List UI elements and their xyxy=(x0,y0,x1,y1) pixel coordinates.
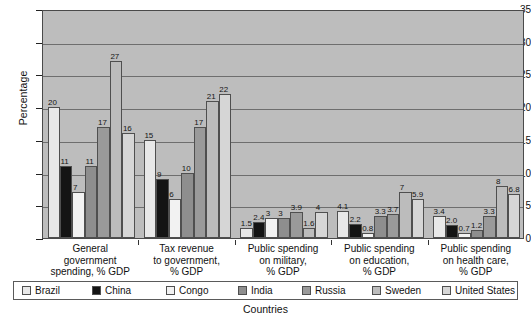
bar-value-label: 8 xyxy=(496,178,500,186)
bar-value-label: 16 xyxy=(123,125,132,133)
bar xyxy=(265,218,277,238)
bar xyxy=(446,225,458,238)
bar-value-label: 11 xyxy=(85,158,93,166)
bar xyxy=(362,233,374,238)
bar xyxy=(315,212,327,238)
bar xyxy=(278,218,290,238)
plot-area: 20117111727161596101721221.52.4333.91.64… xyxy=(42,10,524,239)
bar xyxy=(253,222,265,238)
legend-label: United States xyxy=(455,285,515,296)
bar xyxy=(290,212,302,238)
bar-value-label: 17 xyxy=(98,119,107,127)
bar xyxy=(508,194,520,238)
bar-value-label: 6.8 xyxy=(509,186,520,194)
legend-swatch-icon xyxy=(22,286,31,295)
bar xyxy=(471,230,483,238)
bar-value-label: 4.1 xyxy=(337,203,348,211)
bar-chart: Percentage 05101520253035 20117111727161… xyxy=(0,0,531,318)
bar-value-label: 5.9 xyxy=(412,191,423,199)
bar-value-label: 10 xyxy=(182,165,191,173)
legend-item-congo[interactable]: Congo xyxy=(166,285,208,296)
x-axis-title: Countries xyxy=(0,303,531,315)
bar xyxy=(72,192,84,238)
bar-value-label: 2.2 xyxy=(350,216,361,224)
x-axis-category-label: Generalgovernmentspending, % GDP xyxy=(42,243,138,278)
bar xyxy=(412,199,424,238)
legend-swatch-icon xyxy=(166,286,175,295)
bar xyxy=(169,199,181,238)
bar-value-label: 27 xyxy=(110,53,119,61)
bar xyxy=(483,216,495,238)
legend-swatch-icon xyxy=(238,286,247,295)
bar-value-label: 9 xyxy=(157,171,161,179)
bar-value-label: 3 xyxy=(278,210,282,218)
bar-value-label: 3 xyxy=(266,210,270,218)
bar-value-label: 7 xyxy=(400,184,404,192)
bar-value-label: 4 xyxy=(316,204,320,212)
bar xyxy=(387,214,399,238)
bar-value-label: 0.7 xyxy=(459,225,470,233)
bar xyxy=(433,216,445,238)
legend-swatch-icon xyxy=(442,286,451,295)
legend-item-sweden[interactable]: Sweden xyxy=(372,285,421,296)
bar xyxy=(496,186,508,238)
bar-value-label: 0.8 xyxy=(362,225,373,233)
legend-swatch-icon xyxy=(92,286,101,295)
bar xyxy=(97,127,109,238)
bar-value-label: 1.2 xyxy=(471,222,482,230)
legend-item-china[interactable]: China xyxy=(92,285,131,296)
gridline xyxy=(43,44,523,45)
legend-label: India xyxy=(251,285,273,296)
legend-item-india[interactable]: India xyxy=(238,285,273,296)
x-axis-category-label: Public spendingon military,% GDP xyxy=(235,243,331,278)
bar xyxy=(60,166,72,238)
bar-value-label: 11 xyxy=(60,158,68,166)
legend-item-brazil[interactable]: Brazil xyxy=(22,285,60,296)
bar-value-label: 3.3 xyxy=(484,208,495,216)
legend-item-russia[interactable]: Russia xyxy=(302,285,346,296)
bar xyxy=(240,228,252,238)
bar-value-label: 2.0 xyxy=(446,217,457,225)
legend: BrazilChinaCongoIndiaRussiaSwedenUnited … xyxy=(13,281,518,300)
bar-value-label: 15 xyxy=(144,132,153,140)
bar xyxy=(206,101,218,238)
x-axis-category-label: Public spendingon health care,% GDP xyxy=(428,243,524,278)
bar xyxy=(48,107,60,238)
legend-swatch-icon xyxy=(372,286,381,295)
bar xyxy=(349,224,361,238)
bar-value-label: 1.6 xyxy=(303,220,314,228)
bar xyxy=(374,216,386,238)
y-axis-title: Percentage xyxy=(17,43,29,153)
legend-label: Sweden xyxy=(385,285,421,296)
legend-label: Russia xyxy=(315,285,346,296)
bar-value-label: 17 xyxy=(194,119,203,127)
bar xyxy=(399,192,411,238)
legend-item-united-states[interactable]: United States xyxy=(442,285,515,296)
bar xyxy=(122,133,134,238)
bar xyxy=(144,140,156,238)
bar-value-label: 3.9 xyxy=(291,204,302,212)
bar-value-label: 1.5 xyxy=(241,220,252,228)
bar-value-label: 22 xyxy=(219,86,228,94)
x-axis-category-label: Public spendingon education,% GDP xyxy=(331,243,427,278)
bar xyxy=(181,173,193,238)
bar xyxy=(110,61,122,238)
bar-value-label: 21 xyxy=(207,93,216,101)
bar-value-label: 3.4 xyxy=(434,208,445,216)
bar xyxy=(458,233,470,238)
bar xyxy=(194,127,206,238)
bar xyxy=(303,228,315,238)
legend-label: China xyxy=(105,285,131,296)
bar-value-label: 3.3 xyxy=(375,208,386,216)
x-axis-category-label: Tax revenueto government,% GDP xyxy=(138,243,234,278)
bar-value-label: 6 xyxy=(169,191,173,199)
bar xyxy=(156,179,168,238)
legend-swatch-icon xyxy=(302,286,311,295)
legend-label: Congo xyxy=(179,285,208,296)
bar-value-label: 7 xyxy=(73,184,77,192)
legend-label: Brazil xyxy=(35,285,60,296)
bar xyxy=(219,94,231,238)
bar xyxy=(85,166,97,238)
bar-value-label: 3.7 xyxy=(387,206,398,214)
bar xyxy=(337,211,349,238)
